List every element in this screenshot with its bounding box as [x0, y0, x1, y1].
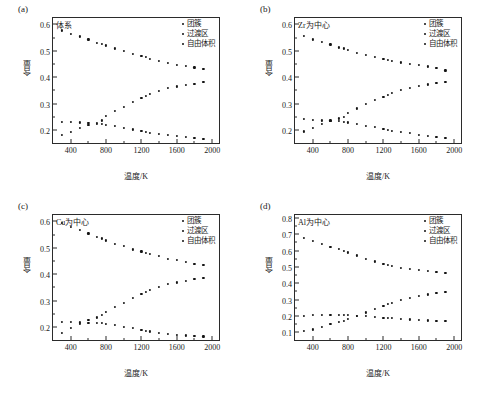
data-point — [167, 87, 169, 89]
y-tick-label: 0.1 — [282, 329, 292, 338]
data-point — [149, 289, 151, 291]
y-tick-mark — [53, 24, 57, 25]
data-point — [78, 122, 80, 124]
data-point — [382, 58, 384, 60]
legend: 团簇过渡区自由体积 — [182, 216, 215, 246]
x-tick-label: 1200 — [133, 343, 149, 352]
y-tick-label: 0.7 — [282, 231, 292, 240]
y-tick-minor — [295, 324, 297, 325]
data-point — [329, 314, 331, 316]
y-tick-label: 0.6 — [282, 21, 292, 30]
data-point — [427, 83, 429, 85]
data-point — [176, 282, 178, 284]
data-point — [96, 42, 98, 44]
x-tick-minor — [194, 141, 195, 143]
y-tick-label: 0.5 — [282, 47, 292, 56]
panel-letter: (b) — [260, 4, 271, 14]
data-point — [391, 265, 393, 267]
data-point — [176, 259, 178, 261]
x-tick-label: 800 — [100, 343, 112, 352]
data-point — [343, 250, 345, 252]
data-point — [158, 133, 160, 135]
data-point — [356, 52, 358, 54]
data-point — [185, 280, 187, 282]
legend-marker-dot-icon — [182, 220, 184, 222]
data-point — [101, 314, 103, 316]
data-point — [123, 127, 125, 129]
data-point — [114, 47, 116, 49]
data-point — [193, 335, 195, 337]
x-tick-minor — [123, 141, 124, 143]
data-point — [61, 332, 63, 334]
data-point — [61, 29, 63, 31]
data-point — [409, 318, 411, 320]
y-tick-label: 0.2 — [40, 127, 50, 136]
data-point — [167, 134, 169, 136]
y-tick-mark — [53, 247, 57, 248]
data-point — [329, 43, 331, 45]
data-point — [382, 263, 384, 265]
x-tick-minor — [401, 338, 402, 340]
y-tick-minor — [53, 234, 55, 235]
data-point — [343, 320, 345, 322]
legend-label: 过渡区 — [429, 29, 450, 39]
data-point — [61, 134, 63, 136]
data-point — [101, 43, 103, 45]
y-tick-mark — [295, 130, 299, 131]
data-point — [70, 327, 72, 329]
data-point — [131, 53, 133, 55]
data-point — [329, 120, 331, 122]
data-point — [391, 317, 393, 319]
data-point — [329, 246, 331, 248]
data-point — [105, 45, 107, 47]
data-point — [185, 84, 187, 86]
x-axis-label: 温度/K — [52, 367, 220, 378]
data-point — [387, 317, 389, 319]
legend: 团簇过渡区自由体积 — [424, 19, 457, 49]
y-tick-minor — [53, 313, 55, 314]
x-tick-minor — [88, 338, 89, 340]
y-tick-mark — [53, 274, 57, 275]
data-point — [176, 86, 178, 88]
y-tick-minor — [295, 116, 297, 117]
data-point — [409, 132, 411, 134]
y-tick-minor — [295, 225, 297, 226]
y-tick-minor — [53, 260, 55, 261]
y-tick-mark — [295, 217, 299, 218]
chart-panel: (a)含量温度/K体系团簇过渡区自由体积0.20.30.40.50.640080… — [0, 0, 242, 197]
data-point — [140, 251, 142, 253]
data-point — [356, 255, 358, 257]
data-point — [61, 121, 63, 123]
y-tick-label: 0.4 — [282, 74, 292, 83]
data-point — [320, 123, 322, 125]
y-tick-mark — [295, 50, 299, 51]
data-point — [387, 94, 389, 96]
data-point — [400, 318, 402, 320]
legend-item: 团簇 — [424, 216, 457, 226]
plot-area: Al为中心团簇过渡区自由体积0.10.20.30.40.50.60.70.840… — [294, 214, 462, 341]
y-tick-label: 0.6 — [40, 218, 50, 227]
data-point — [70, 131, 72, 133]
x-tick-mark — [70, 336, 71, 340]
data-point — [96, 236, 98, 238]
y-tick-label: 0.5 — [40, 47, 50, 56]
x-tick-mark — [383, 336, 384, 340]
data-point — [167, 258, 169, 260]
data-point — [382, 96, 384, 98]
y-tick-label: 0.6 — [282, 247, 292, 256]
data-point — [114, 110, 116, 112]
x-tick-label: 800 — [342, 343, 354, 352]
y-tick-minor — [295, 63, 297, 64]
data-point — [140, 130, 142, 132]
data-point — [312, 240, 314, 242]
legend: 团簇过渡区自由体积 — [424, 216, 457, 246]
y-tick-mark — [53, 130, 57, 131]
data-point — [303, 131, 305, 133]
data-point — [409, 63, 411, 65]
data-point — [87, 38, 89, 40]
data-point — [96, 123, 98, 125]
data-point — [418, 319, 420, 321]
data-point — [400, 131, 402, 133]
y-tick-mark — [295, 266, 299, 267]
x-tick-label: 400 — [307, 343, 319, 352]
